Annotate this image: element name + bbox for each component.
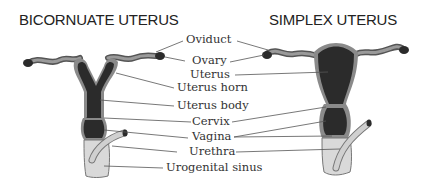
label-uterus: Uterus — [190, 69, 230, 81]
label-cervix: Cervix — [192, 116, 230, 128]
label-vagina: Vagina — [192, 131, 231, 143]
label-urethra: Urethra — [189, 146, 235, 158]
label-uterus-body: Uterus body — [177, 100, 249, 112]
label-urogenital-sinus: Urogenital sinus — [166, 162, 262, 174]
simplex-uterus-figure — [262, 43, 409, 175]
label-ovary: Ovary — [192, 55, 227, 67]
label-oviduct: Oviduct — [186, 34, 231, 46]
bicornuate-uterus-figure — [23, 52, 165, 178]
label-uterus-horn: Uterus horn — [177, 82, 248, 94]
